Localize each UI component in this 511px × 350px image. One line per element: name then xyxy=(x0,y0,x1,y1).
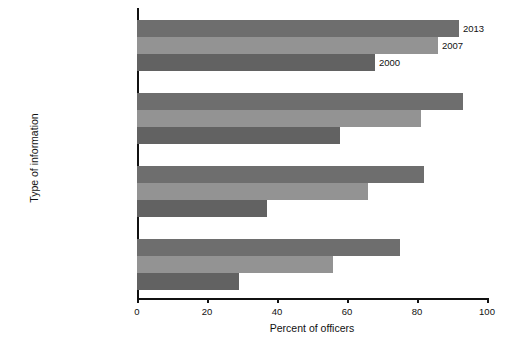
bar xyxy=(137,166,424,183)
bar xyxy=(137,183,368,200)
x-axis-tick-label: 20 xyxy=(187,306,227,317)
bar xyxy=(137,200,267,217)
series-annotation-label: 2007 xyxy=(442,37,463,54)
x-axis-tick-label: 100 xyxy=(467,306,507,317)
x-axis-tick-mark xyxy=(277,298,279,303)
bar xyxy=(137,20,459,37)
bar-chart: Type of information 201320072000Vehicle … xyxy=(0,0,511,350)
bar xyxy=(137,54,375,71)
y-axis-title: Type of information xyxy=(28,58,40,258)
bar xyxy=(137,37,438,54)
bar-group: 201320072000Vehicle records xyxy=(137,20,487,71)
bar xyxy=(137,93,463,110)
bar xyxy=(137,110,421,127)
x-axis-tick-mark xyxy=(137,298,139,303)
x-axis-tick-label: 0 xyxy=(117,306,157,317)
bar xyxy=(137,256,333,273)
x-axis-tick-mark xyxy=(347,298,349,303)
x-axis-tick-mark xyxy=(487,298,489,303)
series-annotation-label: 2000 xyxy=(379,54,400,71)
x-axis-tick-mark xyxy=(417,298,419,303)
x-axis-tick-mark xyxy=(207,298,209,303)
series-annotation-label: 2013 xyxy=(463,20,484,37)
x-axis-line xyxy=(137,298,488,300)
bar-group: Driving records xyxy=(137,93,487,144)
plot-area: 201320072000Vehicle recordsDriving recor… xyxy=(137,8,487,298)
bar xyxy=(137,273,239,290)
bar-group: Criminal histories xyxy=(137,239,487,290)
bar xyxy=(137,239,400,256)
bar-group: Prior calls for service xyxy=(137,166,487,217)
bar xyxy=(137,127,340,144)
x-axis-tick-label: 80 xyxy=(397,306,437,317)
x-axis-tick-label: 40 xyxy=(257,306,297,317)
x-axis-tick-label: 60 xyxy=(327,306,367,317)
x-axis-title: Percent of officers xyxy=(137,322,487,334)
